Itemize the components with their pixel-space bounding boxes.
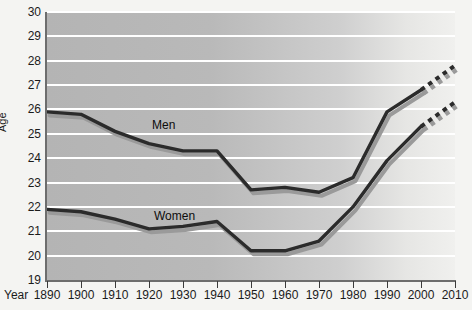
y-axis-title: Age — [0, 112, 8, 132]
series-projection-shadow-women — [424, 106, 458, 130]
series-label-women: Women — [154, 209, 195, 223]
series-projection-men — [421, 66, 455, 90]
y-tick-label: 29 — [1, 30, 41, 42]
x-tick — [149, 281, 150, 288]
series-label-men: Men — [152, 118, 175, 132]
series-shadow-men — [50, 93, 424, 195]
y-tick-label: 24 — [1, 152, 41, 164]
plot-area: Men Women — [47, 12, 455, 280]
x-tick-label: 2010 — [433, 288, 472, 302]
x-tick — [183, 281, 184, 288]
x-tick — [319, 281, 320, 288]
y-tick-label: 22 — [1, 201, 41, 213]
x-tick — [115, 281, 116, 288]
series-projection-women — [421, 102, 455, 126]
x-tick — [285, 281, 286, 288]
x-tick — [47, 281, 48, 288]
y-tick-label: 21 — [1, 225, 41, 237]
x-tick — [353, 281, 354, 288]
chart-figure: Men Women 192021222324252627282930 18901… — [0, 0, 472, 310]
y-tick-label: 30 — [1, 6, 41, 18]
x-tick — [387, 281, 388, 288]
y-axis-spine — [45, 12, 47, 281]
series-line-women — [47, 127, 421, 251]
x-tick — [455, 281, 456, 288]
series-projection-shadow-men — [424, 69, 458, 93]
x-tick — [81, 281, 82, 288]
x-axis-title: Year — [4, 288, 28, 302]
y-tick-label: 27 — [1, 79, 41, 91]
y-tick-label: 28 — [1, 55, 41, 67]
y-tick-label: 23 — [1, 177, 41, 189]
x-tick — [421, 281, 422, 288]
y-tick-label: 20 — [1, 250, 41, 262]
series-layer — [47, 12, 455, 280]
x-tick — [251, 281, 252, 288]
x-axis-tick-labels: 1890190019101920193019401950196019701980… — [0, 288, 472, 306]
x-tick — [217, 281, 218, 288]
y-axis-tick-labels: 192021222324252627282930 — [0, 12, 41, 280]
series-line-men — [47, 90, 421, 192]
